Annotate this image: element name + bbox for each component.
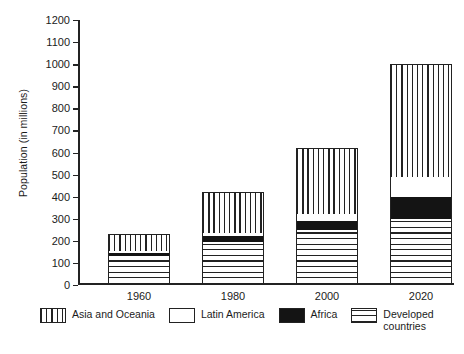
bar-group: 2000	[296, 148, 358, 285]
bar-segment	[296, 221, 358, 230]
y-tick-label: 1100	[46, 37, 70, 48]
bar-segment	[390, 64, 452, 177]
bar-segment	[202, 233, 264, 236]
y-tick-label: 900	[52, 81, 70, 92]
bar-segment	[296, 230, 358, 285]
bar-group: 1980	[202, 192, 264, 285]
legend-swatch	[351, 308, 377, 323]
chart-legend: Asia and OceaniaLatin AmericaAfricaDevel…	[40, 308, 450, 332]
bar-segment	[202, 192, 264, 233]
bar-group: 1960	[108, 234, 170, 285]
legend-label: Asia and Oceania	[72, 308, 155, 321]
population-stacked-bar-chart: Population (in millions) 120011001000900…	[0, 0, 464, 354]
legend-swatch	[40, 308, 66, 323]
legend-label: Latin America	[201, 308, 265, 321]
bar-segment	[390, 177, 452, 197]
legend-item: Latin America	[169, 308, 265, 323]
bar-segment	[202, 236, 264, 242]
legend-swatch	[279, 308, 305, 323]
bar-segment	[108, 251, 170, 253]
y-tick-mark	[73, 285, 78, 286]
plot-area: 1200110010009008007006005004003002001000…	[78, 20, 454, 285]
legend-swatch	[169, 308, 195, 323]
x-tick-label: 2020	[409, 290, 433, 302]
y-tick-label: 0	[64, 280, 70, 291]
bar-segment	[108, 256, 170, 285]
legend-label: Developed countries	[383, 308, 436, 332]
legend-label: Africa	[311, 308, 338, 321]
bar-segment	[390, 219, 452, 285]
bar-series-container: 1960198020002020	[78, 20, 454, 285]
y-tick-label: 500	[52, 169, 70, 180]
bar-group: 2020	[390, 64, 452, 285]
x-tick-label: 2000	[315, 290, 339, 302]
bar-segment	[202, 242, 264, 285]
y-tick-label: 600	[52, 147, 70, 158]
y-tick-label: 300	[52, 213, 70, 224]
legend-item: Developed countries	[351, 308, 436, 332]
legend-item: Asia and Oceania	[40, 308, 155, 323]
y-tick-label: 800	[52, 103, 70, 114]
bar-segment	[296, 148, 358, 214]
bar-segment	[390, 197, 452, 219]
y-axis-title: Population (in millions)	[14, 0, 32, 286]
bar-segment	[108, 234, 170, 251]
y-axis-title-text: Population (in millions)	[17, 89, 29, 197]
bar-segment	[108, 253, 170, 256]
y-tick-label: 100	[52, 257, 70, 268]
y-tick-label: 1200	[46, 15, 70, 26]
x-tick-label: 1980	[221, 290, 245, 302]
bar-segment	[296, 214, 358, 221]
y-tick-label: 700	[52, 125, 70, 136]
y-tick-label: 1000	[46, 59, 70, 70]
y-tick-label: 400	[52, 191, 70, 202]
y-tick-label: 200	[52, 235, 70, 246]
legend-item: Africa	[279, 308, 338, 323]
x-tick-label: 1960	[127, 290, 151, 302]
